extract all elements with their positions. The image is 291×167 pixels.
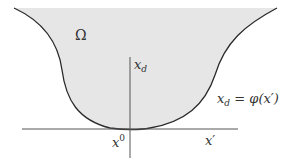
diagram-svg xyxy=(0,0,291,167)
origin-label-sup: 0 xyxy=(119,133,125,143)
origin-label: x0 xyxy=(112,134,125,149)
equation-rhs-arg: (x′) xyxy=(258,91,278,106)
horizontal-axis-label-prime: ′ xyxy=(212,133,215,148)
diagram-canvas: Ω xd xd = φ(x′) x0 x′ xyxy=(0,0,291,167)
region-label-omega: Ω xyxy=(75,28,87,42)
equation-equals: = xyxy=(230,91,249,106)
vertical-axis-label-sub: d xyxy=(141,64,147,74)
vertical-axis-label: xd xyxy=(134,58,147,74)
boundary-equation: xd = φ(x′) xyxy=(217,92,279,108)
horizontal-axis-label: x′ xyxy=(205,134,215,147)
domain-top-edge xyxy=(14,8,277,9)
